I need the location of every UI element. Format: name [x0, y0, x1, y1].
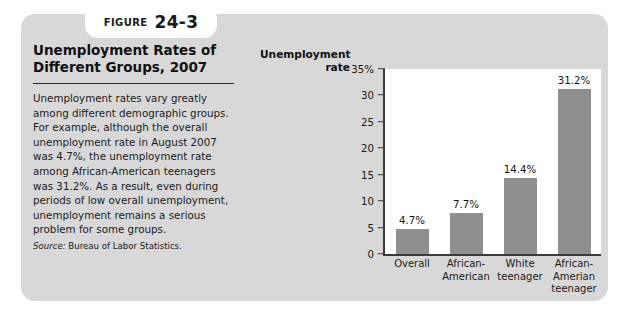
- y-axis-tick: [378, 68, 385, 69]
- x-axis-category-labels: OverallAfrican- AmericanWhite teenagerAf…: [385, 258, 601, 296]
- bar-value-label: 14.4%: [504, 164, 536, 175]
- y-axis-tick-label: 35%: [351, 64, 374, 75]
- y-axis-tick-label: 20: [361, 143, 374, 154]
- bar-value-label: 7.7%: [453, 199, 479, 210]
- y-axis-tick-label: 15: [361, 169, 374, 180]
- x-axis-category-label: African- Amerian teenager: [547, 258, 601, 296]
- y-axis-tick-label: 30: [361, 90, 374, 101]
- y-axis-title: Unemployment rate: [260, 48, 350, 74]
- bar-group: 4.7%: [396, 69, 429, 254]
- source-text: Bureau of Labor Statistics.: [68, 241, 181, 251]
- bar-group: 7.7%: [450, 69, 483, 254]
- y-axis-tick: [378, 147, 385, 148]
- figure-root: FIGURE 24-3 Unemployment Rates of Differ…: [0, 0, 629, 318]
- y-axis-tick-label: 25: [361, 116, 374, 127]
- bar-value-label: 4.7%: [399, 215, 425, 226]
- figure-number: 24-3: [155, 12, 199, 32]
- bar-group: 31.2%: [558, 69, 591, 254]
- bar: [504, 178, 537, 254]
- y-axis-tick: [378, 174, 385, 175]
- y-axis-tick-label: 0: [368, 249, 374, 260]
- bar-series: 4.7%7.7%14.4%31.2%: [385, 69, 601, 254]
- bar-chart: Unemployment rate 35%302520151050 4.7%7.…: [260, 36, 600, 301]
- y-axis-tick: [378, 95, 385, 96]
- y-axis-tick: [378, 227, 385, 228]
- y-axis-tick-label: 10: [361, 196, 374, 207]
- figure-number-badge: FIGURE 24-3: [85, 6, 217, 38]
- bar: [450, 213, 483, 254]
- figure-panel: FIGURE 24-3 Unemployment Rates of Differ…: [21, 14, 608, 301]
- y-axis-tick-label: 5: [368, 222, 374, 233]
- bar: [558, 89, 591, 254]
- bar: [396, 229, 429, 254]
- source-label: Source:: [33, 241, 66, 251]
- plot-area: 35%302520151050 4.7%7.7%14.4%31.2%: [383, 69, 601, 256]
- bar-value-label: 31.2%: [558, 75, 590, 86]
- x-axis-category-label: African- American: [439, 258, 493, 283]
- bar-group: 14.4%: [504, 69, 537, 254]
- title-divider: [33, 83, 234, 84]
- figure-source: Source: Bureau of Labor Statistics.: [33, 241, 255, 252]
- x-axis-category-label: White teenager: [493, 258, 547, 283]
- x-axis-category-label: Overall: [385, 258, 439, 271]
- y-axis-tick: [378, 200, 385, 201]
- y-axis-tick: [378, 121, 385, 122]
- y-axis-tick: [378, 253, 385, 254]
- figure-body-text: Unemployment rates vary greatly among di…: [33, 91, 238, 237]
- figure-text-column: Unemployment Rates of Different Groups, …: [33, 42, 255, 252]
- figure-label-word: FIGURE: [104, 17, 148, 28]
- figure-title: Unemployment Rates of Different Groups, …: [33, 42, 255, 76]
